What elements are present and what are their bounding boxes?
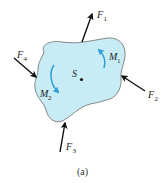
force-f3-label: F 3 bbox=[65, 141, 77, 155]
point-s-label: S bbox=[72, 68, 77, 79]
svg-text:2: 2 bbox=[155, 95, 159, 103]
force-f2-label: F 2 bbox=[147, 89, 159, 103]
figure-caption: (a) bbox=[77, 166, 88, 178]
svg-text:1: 1 bbox=[117, 57, 121, 65]
svg-text:2: 2 bbox=[48, 94, 52, 102]
free-body-diagram: S F 1 F 2 F 3 F 4 M 1 M 2 (a) bbox=[0, 0, 168, 183]
svg-text:1: 1 bbox=[104, 15, 108, 23]
force-f2-arrow bbox=[122, 76, 145, 91]
svg-text:3: 3 bbox=[73, 147, 77, 155]
force-f3-arrow bbox=[60, 123, 65, 152]
svg-text:4: 4 bbox=[24, 55, 28, 63]
force-f1-arrow bbox=[82, 14, 92, 42]
point-s-dot bbox=[80, 78, 83, 81]
force-f1-label: F 1 bbox=[96, 9, 108, 23]
